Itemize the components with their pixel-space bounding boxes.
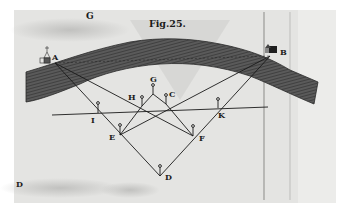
label-g: G	[150, 74, 157, 84]
label-e: E	[109, 132, 115, 142]
label-k: K	[218, 110, 226, 120]
label-f: F	[199, 133, 205, 143]
label-corner-g: G	[86, 11, 94, 21]
label-h: H	[128, 92, 136, 102]
staff-K	[217, 98, 220, 108]
label-corner-d: D	[16, 179, 23, 189]
survey-diagram: G Fig.25. A B G H C I K E F D D	[0, 0, 346, 204]
label-a: A	[51, 52, 59, 62]
house-icon	[265, 44, 277, 53]
label-d: D	[165, 172, 172, 182]
staff-C	[165, 94, 168, 104]
staff-I	[97, 102, 100, 113]
label-i: I	[91, 115, 95, 125]
church-icon	[40, 46, 50, 63]
figure-title: Fig.25.	[149, 18, 186, 29]
label-c: C	[169, 89, 175, 99]
staff-G	[152, 84, 155, 94]
label-b: B	[280, 47, 287, 57]
